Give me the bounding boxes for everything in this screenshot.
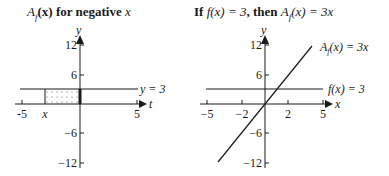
x-axis-arrow [139, 100, 147, 108]
x-tick-neg5: -5 [17, 107, 27, 121]
x-tick-5: 5 [320, 107, 326, 121]
right-graph: y x 12 6 −6 −12 −5 −2 2 5 Af(x) = 3x f(x… [200, 23, 369, 170]
x-axis-label: t [149, 97, 153, 111]
y-tick-6: 6 [256, 68, 262, 82]
constant-line-label: f(x) = 3 [328, 82, 365, 96]
y-tick-6: 6 [71, 68, 77, 82]
y-tick-neg12: −12 [58, 156, 77, 170]
x-tick-x: x [41, 107, 48, 121]
left-graph: y t 12 6 −6 −12 -5 x 5 y = 3 [15, 23, 165, 170]
x-tick-2: 2 [285, 107, 291, 121]
y-tick-neg6: −6 [64, 126, 77, 140]
y-tick-neg6: −6 [249, 126, 262, 140]
linear-line-label: Af(x) = 3x [319, 40, 369, 56]
x-tick-neg5: −5 [201, 107, 214, 121]
x-tick-neg2: −2 [236, 107, 249, 121]
y-tick-12: 12 [250, 38, 262, 52]
x-axis-label: x [334, 97, 341, 111]
graphs: y t 12 6 −6 −12 -5 x 5 y = 3 y x 12 6 [0, 0, 389, 176]
x-axis-arrow [325, 100, 333, 108]
y-tick-neg12: −12 [243, 156, 262, 170]
x-tick-5: 5 [134, 107, 140, 121]
y-axis-label: y [260, 23, 267, 37]
shaded-area [45, 89, 80, 104]
y-tick-12: 12 [65, 38, 77, 52]
line-label: y = 3 [139, 82, 165, 96]
y-axis-label: y [75, 23, 82, 37]
